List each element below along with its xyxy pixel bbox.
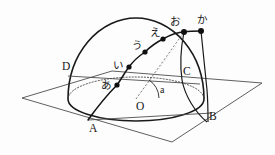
label-path-ka: か bbox=[197, 14, 207, 25]
label-path-a1: あ bbox=[101, 80, 111, 91]
label-point-A: A bbox=[89, 123, 97, 135]
label-point-C: C bbox=[183, 66, 191, 78]
label-angle-a: a bbox=[160, 85, 164, 95]
path-dot-o bbox=[181, 29, 187, 35]
label-path-i: い bbox=[113, 60, 123, 71]
angle-arc-a bbox=[149, 80, 159, 98]
path-dot-ka bbox=[198, 28, 204, 34]
segment-D-C bbox=[68, 76, 200, 84]
path-dot-e bbox=[160, 36, 165, 41]
label-point-D: D bbox=[62, 61, 70, 73]
label-point-B: B bbox=[209, 111, 217, 123]
segment-A-B bbox=[88, 113, 212, 120]
geometry-diagram bbox=[0, 0, 275, 155]
label-path-e: え bbox=[150, 27, 160, 38]
path-dot-a1 bbox=[114, 82, 119, 87]
label-path-o: お bbox=[170, 16, 180, 27]
path-dot-i bbox=[126, 64, 131, 69]
label-center-O: O bbox=[136, 101, 144, 113]
label-path-u: う bbox=[132, 40, 142, 51]
figure-root: D C A B O a あ い う え お か bbox=[0, 0, 275, 155]
path-dot-u bbox=[142, 49, 147, 54]
